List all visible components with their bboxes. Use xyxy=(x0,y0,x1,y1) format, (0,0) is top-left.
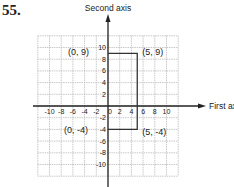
y-tick-label: 4 xyxy=(102,79,106,86)
y-tick-label: -10 xyxy=(96,161,106,168)
x-tick-label: -2 xyxy=(93,108,99,115)
x-tick-label: 10 xyxy=(163,108,171,115)
x-axis-label: First axis xyxy=(209,101,234,111)
y-tick-label: 8 xyxy=(102,56,106,63)
y-tick-label: 6 xyxy=(102,67,106,74)
x-tick-label: -4 xyxy=(81,108,87,115)
point-label: (0, -4) xyxy=(64,125,88,135)
point-label: (5, 9) xyxy=(142,47,163,57)
point-label: (5, -4) xyxy=(142,127,166,137)
y-tick-label: -6 xyxy=(100,138,106,145)
y-tick-label: -2 xyxy=(100,114,106,121)
x-tick-label: 6 xyxy=(141,108,145,115)
x-tick-label: 0 xyxy=(108,108,112,115)
x-tick-label: -8 xyxy=(58,108,64,115)
x-tick-label: -6 xyxy=(70,108,76,115)
point-label: (0, 9) xyxy=(68,47,89,57)
y-tick-label: 10 xyxy=(98,44,106,51)
coordinate-plane: Second axisFirst axis-10-8-6-4-202468101… xyxy=(0,0,234,187)
x-tick-label: 2 xyxy=(118,108,122,115)
y-axis-arrow-icon xyxy=(106,14,111,22)
x-axis-arrow-icon xyxy=(198,104,206,109)
x-tick-label: 4 xyxy=(129,108,133,115)
y-axis-label: Second axis xyxy=(85,3,131,13)
y-tick-label: -8 xyxy=(100,149,106,156)
y-tick-label: -4 xyxy=(100,126,106,133)
x-tick-label: -10 xyxy=(44,108,54,115)
x-tick-label: 8 xyxy=(153,108,157,115)
y-tick-label: 2 xyxy=(102,91,106,98)
